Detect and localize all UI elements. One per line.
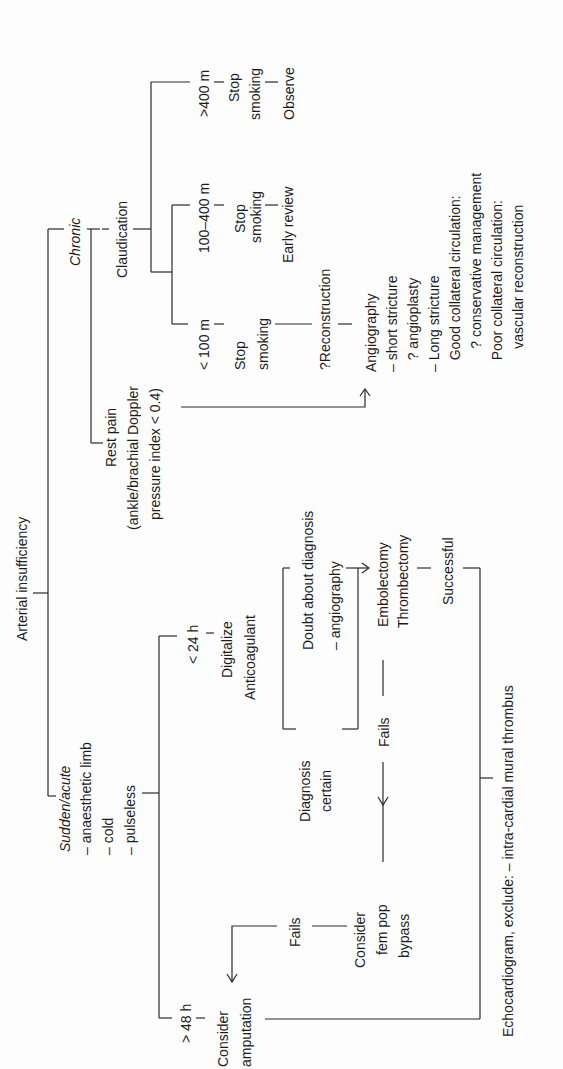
label-anticoagulant: Anticoagulant (242, 615, 258, 700)
label-angio-line-5: ? conservative management (468, 173, 484, 372)
label-fails-2: Fails (287, 917, 303, 947)
arterial-insufficiency-flowchart: Arterial insufficiency Chronic Claudicat… (0, 0, 563, 1069)
label-claudication: Claudication (114, 201, 130, 278)
label-consider-amputation-2: amputation (238, 998, 254, 1067)
label-observe: Observe (281, 67, 297, 120)
label-lt24h: < 24 h (185, 625, 201, 664)
label-angio-line-7: vascular reconstruction (510, 205, 526, 372)
label-sudden-acute: Sudden/acute (57, 765, 73, 852)
label-lt100m: < 100 m (196, 319, 212, 370)
title-arterial-insufficiency: Arterial insufficiency (14, 517, 30, 641)
label-reconstruction: ?Reconstruction (317, 269, 333, 370)
label-digitalize: Digitalize (219, 621, 235, 678)
label-thrombectomy: Thrombectomy (395, 535, 411, 628)
label-angio-line-4: Good collateral circulation: (447, 195, 463, 372)
label-angio-line-2: ? angioplasty (405, 278, 421, 372)
label-gt48h: > 48 h (178, 1004, 194, 1043)
label-lt100-smoking: smoking (255, 318, 271, 370)
label-angiography: Angiography (363, 293, 379, 372)
label-successful: Successful (440, 537, 456, 605)
label-gt400-smoking: smoking (247, 68, 263, 120)
label-rest-pain: Rest pain (103, 408, 119, 467)
label-symptom-cold: – cold (100, 818, 116, 855)
flowchart-canvas: Arterial insufficiency Chronic Claudicat… (0, 0, 563, 1069)
label-angio-line-1: – short stricture (384, 275, 400, 372)
flowchart-labels: Arterial insufficiency Chronic Claudicat… (14, 67, 526, 1067)
label-bypass: bypass (396, 914, 412, 958)
label-symptom-pulseless: – pulseless (122, 785, 138, 855)
label-early-review: Early review (280, 186, 296, 263)
label-gt400-stop: Stop (226, 73, 242, 102)
label-gt400m: >400 m (196, 70, 212, 117)
label-fails-1: Fails (376, 717, 392, 747)
label-chronic: Chronic (67, 218, 83, 266)
label-fem-pop: fem pop (374, 904, 390, 955)
label-doubt-diagnosis: Doubt about diagnosis (300, 511, 316, 650)
label-100-400-smoking: smoking (248, 191, 264, 243)
label-diagnosis: Diagnosis (297, 761, 313, 822)
label-doubt-angiography: – angiography (327, 561, 343, 650)
label-100-400-stop: Stop (232, 204, 248, 233)
label-rest-pain-index: pressure index < 0.4) (147, 388, 163, 520)
label-lt100-stop: Stop (232, 341, 248, 370)
label-rest-pain-doppler: (ankle/brachial Doppler (125, 386, 141, 530)
label-angio-line-6: Poor collateral circulation: (489, 200, 505, 372)
label-echocardiogram: Echocardiogram, exclude: – intra-cardial… (500, 685, 516, 1037)
label-100-400m: 100–400 m (196, 183, 212, 253)
label-consider-fempop: Consider (352, 912, 368, 968)
label-certain: certain (318, 770, 334, 812)
label-embolectomy: Embolectomy (375, 542, 391, 627)
label-consider-amputation-1: Consider (215, 1011, 231, 1067)
label-symptom-anaesthetic: – anaesthetic limb (78, 742, 94, 855)
label-angio-line-3: – Long stricture (426, 275, 442, 372)
